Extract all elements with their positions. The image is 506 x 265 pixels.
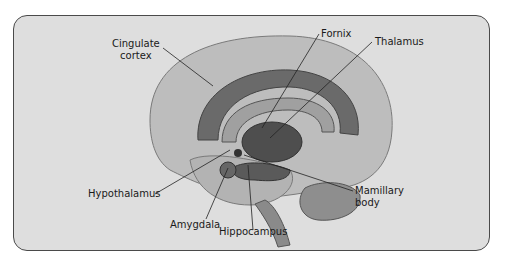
label-text: Mamillary — [355, 185, 404, 197]
label-text: Cingulate — [112, 38, 160, 50]
label-fornix: Fornix — [321, 28, 351, 40]
cerebellum-shape — [300, 183, 360, 221]
amygdala-shape — [220, 162, 236, 178]
label-text: cortex — [112, 50, 160, 62]
label-amygdala: Amygdala — [170, 219, 220, 231]
label-hypothalamus: Hypothalamus — [88, 188, 161, 200]
label-hippocampus: Hippocampus — [219, 226, 287, 238]
label-mamillary-body: Mamillary body — [355, 185, 404, 209]
label-text: body — [355, 197, 404, 209]
thalamus-shape — [242, 122, 302, 162]
label-thalamus: Thalamus — [375, 36, 424, 48]
mamillary-shape — [234, 149, 242, 157]
label-cingulate-cortex: Cingulate cortex — [112, 38, 160, 62]
